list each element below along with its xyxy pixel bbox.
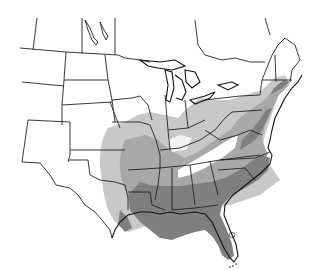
distribution-map [0,0,314,270]
map-svg [0,0,314,270]
great-lakes [140,60,238,104]
florida-keys [229,263,237,268]
